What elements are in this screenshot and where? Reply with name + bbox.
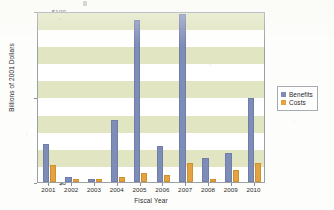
bar-benefits-2001[interactable] — [43, 144, 50, 182]
x-axis-tick-2003: 2003 — [83, 186, 105, 193]
chart-legend: Benefits Costs — [277, 86, 318, 111]
bar-benefits-2005[interactable] — [134, 20, 141, 182]
legend-label-benefits: Benefits — [289, 91, 313, 98]
legend-swatch-benefits — [281, 92, 286, 97]
y-axis-label: Billions of 2001 Dollars — [8, 23, 15, 133]
x-axis-tick-2005: 2005 — [129, 186, 151, 193]
bar-costs-2006[interactable] — [164, 175, 170, 182]
legend-item-benefits[interactable]: Benefits — [281, 91, 313, 98]
bar-costs-2010[interactable] — [255, 163, 261, 182]
legend-item-costs[interactable]: Costs — [281, 99, 313, 106]
bar-costs-2009[interactable] — [233, 170, 239, 182]
bar-costs-2001[interactable] — [50, 165, 56, 182]
x-axis-tick-2004: 2004 — [106, 186, 128, 193]
y-tickmark-0 — [34, 183, 37, 184]
x-axis-tick-2010: 2010 — [243, 186, 265, 193]
x-axis-tick-2008: 2008 — [197, 186, 219, 193]
bar-costs-2008[interactable] — [210, 179, 216, 182]
bar-costs-2002[interactable] — [73, 179, 79, 182]
scan-artifact-mark — [83, 1, 87, 6]
x-axis-tick-2007: 2007 — [174, 186, 196, 193]
bar-benefits-2007[interactable] — [179, 14, 186, 182]
legend-label-costs: Costs — [289, 99, 306, 106]
plot-area — [37, 12, 265, 183]
bar-costs-2003[interactable] — [96, 179, 102, 182]
bar-benefits-2010[interactable] — [248, 98, 255, 182]
x-axis-tick-2006: 2006 — [151, 186, 173, 193]
chart-page: $100 $50 $0 Billions of 2001 Dollars 200… — [0, 0, 334, 210]
bar-benefits-2002[interactable] — [65, 177, 72, 182]
x-axis-tick-2002: 2002 — [60, 186, 82, 193]
bar-benefits-2006[interactable] — [157, 146, 164, 182]
bars-container — [38, 13, 264, 182]
x-axis-label: Fiscal Year — [37, 197, 265, 204]
bar-costs-2004[interactable] — [119, 177, 125, 182]
bar-benefits-2009[interactable] — [225, 153, 232, 182]
x-axis-tick-2001: 2001 — [37, 186, 59, 193]
bar-benefits-2004[interactable] — [111, 120, 118, 182]
x-axis-tick-2009: 2009 — [220, 186, 242, 193]
bar-benefits-2008[interactable] — [202, 158, 209, 182]
legend-swatch-costs — [281, 100, 286, 105]
bar-costs-2005[interactable] — [141, 173, 147, 182]
bar-costs-2007[interactable] — [187, 163, 193, 182]
bar-benefits-2003[interactable] — [88, 179, 95, 182]
